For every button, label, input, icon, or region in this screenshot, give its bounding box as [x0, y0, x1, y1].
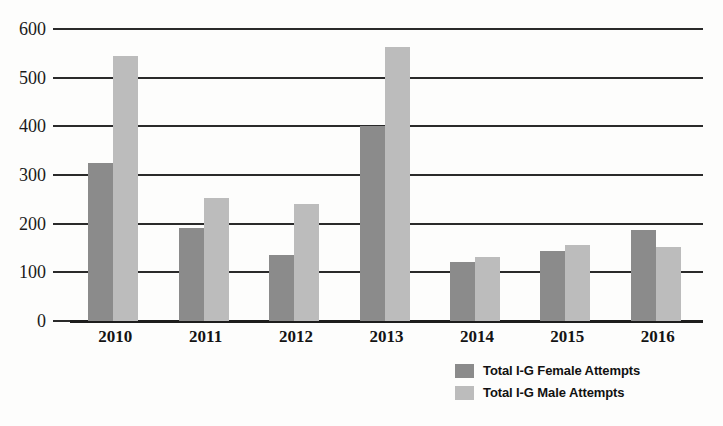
y-tick-300 [53, 174, 70, 176]
x-axis-label-2014: 2014 [432, 328, 522, 345]
bar-female-2011 [179, 228, 204, 321]
legend-label-male: Total I-G Male Attempts [483, 385, 624, 400]
y-axis-label-300: 300 [0, 166, 46, 184]
legend-item-male[interactable]: Total I-G Male Attempts [455, 383, 640, 402]
plot-area [70, 29, 703, 321]
bar-female-2014 [450, 262, 475, 321]
female-swatch-icon [455, 364, 474, 378]
bar-female-2013 [360, 126, 385, 321]
y-tick-100 [53, 271, 70, 273]
bar-chart-figure: 6005004003002001000 20102011201220132014… [0, 0, 723, 426]
male-swatch-icon [455, 386, 474, 400]
y-tick-400 [53, 125, 70, 127]
y-axis-label-400: 400 [0, 117, 46, 135]
x-axis-label-2010: 2010 [70, 328, 160, 345]
chart-legend: Total I-G Female AttemptsTotal I-G Male … [455, 361, 640, 405]
y-tick-0 [53, 320, 70, 322]
y-axis-label-0: 0 [0, 312, 46, 330]
x-axis-label-2011: 2011 [160, 328, 250, 345]
bar-female-2010 [88, 163, 113, 321]
y-tick-600 [53, 28, 70, 30]
bar-male-2014 [475, 257, 500, 321]
x-axis-label-2016: 2016 [613, 328, 703, 345]
x-axis-label-2013: 2013 [341, 328, 431, 345]
legend-label-female: Total I-G Female Attempts [483, 363, 640, 378]
bar-male-2013 [385, 47, 410, 321]
x-axis-label-2012: 2012 [251, 328, 341, 345]
y-tick-200 [53, 223, 70, 225]
bar-male-2015 [565, 245, 590, 321]
bar-male-2012 [294, 204, 319, 321]
y-tick-500 [53, 77, 70, 79]
x-axis-label-2015: 2015 [522, 328, 612, 345]
bar-female-2016 [631, 230, 656, 321]
bar-male-2011 [204, 198, 229, 321]
legend-item-female[interactable]: Total I-G Female Attempts [455, 361, 640, 380]
y-axis-label-100: 100 [0, 263, 46, 281]
y-axis-label-200: 200 [0, 215, 46, 233]
y-axis-label-500: 500 [0, 69, 46, 87]
bar-male-2016 [656, 247, 681, 321]
y-axis-label-600: 600 [0, 20, 46, 38]
bar-female-2012 [269, 255, 294, 321]
gridline-600 [70, 28, 703, 30]
bar-male-2010 [113, 56, 138, 321]
bar-female-2015 [540, 251, 565, 321]
